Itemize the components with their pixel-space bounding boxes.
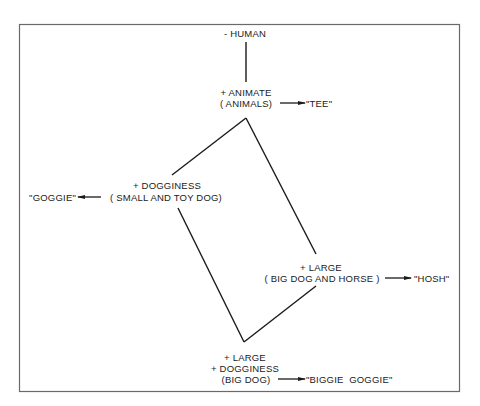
node-large-dogginess-feature-2: + DOGGINESS bbox=[211, 363, 279, 374]
edge-dogginess-large-dogginess bbox=[178, 208, 244, 342]
word-biggie-goggie: "BIGGIE GOGGIE" bbox=[306, 374, 393, 385]
node-large: + LARGE ( BIG DOG AND HORSE ) "HOSH" bbox=[264, 262, 449, 284]
node-dogginess: + DOGGINESS ( SMALL AND TOY DOG) "GOGGIE… bbox=[29, 180, 222, 203]
node-dogginess-gloss: ( SMALL AND TOY DOG) bbox=[110, 192, 222, 203]
word-arrows bbox=[78, 103, 411, 379]
word-goggie: "GOGGIE" bbox=[29, 192, 76, 203]
node-large-dogginess: + LARGE + DOGGINESS (BIG DOG) "BIGGIE GO… bbox=[211, 352, 392, 385]
node-large-dogginess-gloss: (BIG DOG) bbox=[222, 374, 271, 385]
node-large-feature: + LARGE bbox=[300, 262, 342, 273]
node-dogginess-feature: + DOGGINESS bbox=[133, 180, 201, 191]
node-human: - HUMAN bbox=[224, 28, 266, 39]
node-human-label: - HUMAN bbox=[224, 28, 266, 39]
word-tee: "TEE" bbox=[306, 98, 332, 109]
feature-diagram: - HUMAN + ANIMATE ( ANIMALS) "TEE" + DOG… bbox=[0, 0, 480, 406]
node-animate-feature: + ANIMATE bbox=[221, 87, 272, 98]
edge-animate-dogginess bbox=[172, 118, 246, 175]
diagram-frame bbox=[20, 25, 460, 392]
node-large-dogginess-feature-1: + LARGE bbox=[224, 352, 266, 363]
edge-large-large-dogginess bbox=[244, 286, 316, 342]
word-hosh: "HOSH" bbox=[414, 273, 449, 284]
node-large-gloss: ( BIG DOG AND HORSE ) bbox=[264, 273, 379, 284]
node-animate: + ANIMATE ( ANIMALS) "TEE" bbox=[220, 87, 332, 109]
node-animate-gloss: ( ANIMALS) bbox=[220, 98, 272, 109]
edge-animate-large bbox=[246, 118, 316, 254]
